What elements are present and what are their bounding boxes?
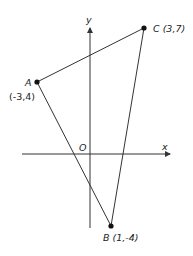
point-C	[141, 25, 146, 30]
point-B-label: B (1,-4)	[103, 232, 139, 243]
point-B	[108, 223, 113, 228]
point-A	[34, 79, 39, 84]
point-A-name: A	[24, 77, 32, 88]
point-C-label: C (3,7)	[153, 23, 185, 34]
y-axis-label: y	[85, 14, 92, 25]
point-A-coord: (-3,4)	[9, 91, 35, 102]
coordinate-plane-diagram: y x O A (-3,4) C (3,7) B (1,-4)	[0, 0, 193, 256]
origin-label: O	[79, 142, 87, 153]
side-CB	[111, 28, 144, 226]
x-axis-label: x	[161, 141, 168, 152]
